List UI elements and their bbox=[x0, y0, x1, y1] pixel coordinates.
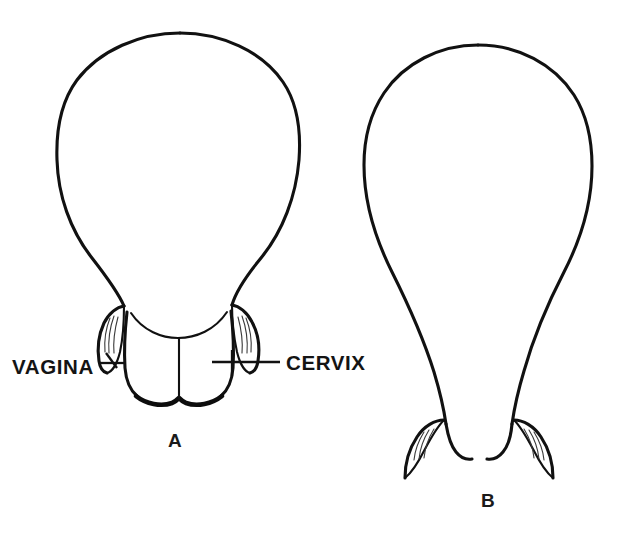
cervix-wall-a-left bbox=[125, 312, 137, 396]
uterus-body-outline-b-left bbox=[364, 45, 478, 424]
uterus-body-outline-a-right bbox=[180, 33, 300, 305]
anatomy-diagram: VAGINA CERVIX A B bbox=[0, 0, 621, 534]
panel-b-figure bbox=[364, 45, 592, 478]
isthmus-curve-a bbox=[131, 312, 227, 338]
cervix-label: CERVIX bbox=[286, 351, 366, 374]
vagina-label: VAGINA bbox=[12, 355, 94, 378]
fornix-hatching-a-right bbox=[238, 316, 251, 353]
cervix-neck-b-left bbox=[446, 424, 472, 459]
uterus-body-outline-a-left bbox=[57, 33, 180, 306]
uterus-body-outline-b-right bbox=[478, 45, 592, 424]
panel-label-a: A bbox=[168, 430, 182, 451]
fornix-hatching-b-left bbox=[414, 429, 434, 460]
cervix-neck-b-right bbox=[487, 424, 512, 459]
panel-a-figure bbox=[57, 33, 300, 405]
fornix-hatching-a-left bbox=[105, 316, 118, 353]
fornix-hatching-b-right bbox=[524, 429, 544, 460]
panel-label-b: B bbox=[481, 490, 495, 511]
vagina-leader-line bbox=[100, 353, 124, 368]
